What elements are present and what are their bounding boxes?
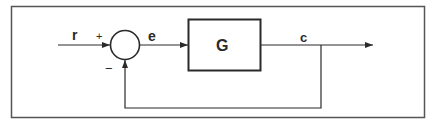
error-signal-label: e [148,28,156,44]
plus-sign: + [96,30,102,42]
feedback-path [125,45,321,108]
summing-junction [111,31,140,60]
diagram-frame [12,7,425,118]
input-signal-label: r [72,27,78,43]
output-signal-label: c [300,30,307,45]
block-diagram: r + − e G c [0,0,433,125]
minus-sign: − [105,61,113,76]
block-g-label: G [216,37,228,54]
